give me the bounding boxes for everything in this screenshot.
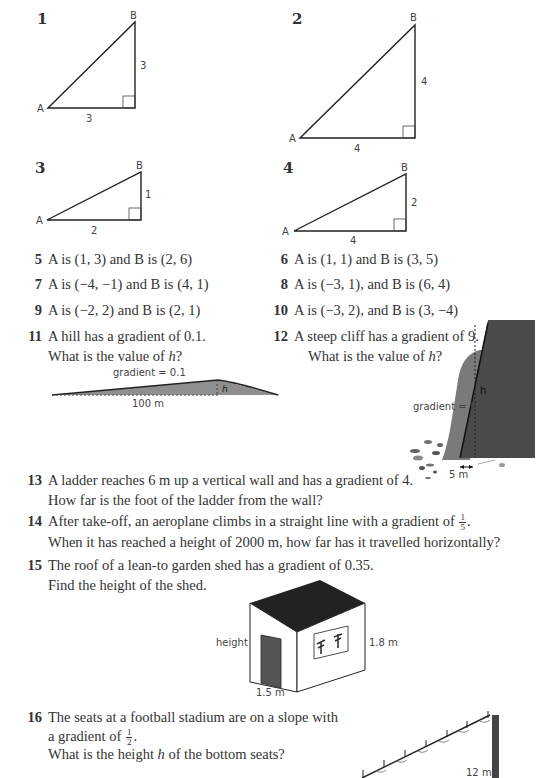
gradient-label: gradient = 0.1 xyxy=(113,367,186,378)
question-text: A is (−4, −1) and B is (4, 1) xyxy=(48,276,209,292)
fraction: 15 xyxy=(459,513,466,532)
question-text: After take-off, an aeroplane climbs in a… xyxy=(48,513,458,529)
question-text: A is (1, 1) and B is (3, 5) xyxy=(294,251,438,267)
question-number: 16 xyxy=(22,709,42,726)
question-13-line-2: How far is the foot of the ladder from t… xyxy=(48,492,323,509)
question-text: When it has reached a height of 2000 m, … xyxy=(48,534,500,550)
base-label: 3 xyxy=(86,113,92,124)
question-text: How far is the foot of the ladder from t… xyxy=(48,492,323,508)
h-label: h xyxy=(222,384,228,394)
vertex-b-label: B xyxy=(401,162,408,173)
height-label: 3 xyxy=(140,60,146,71)
question-text: . xyxy=(133,728,137,744)
vertex-a-label: A xyxy=(289,133,296,144)
height-label: height xyxy=(216,637,248,648)
question-number: 15 xyxy=(22,557,42,574)
base-label: 100 m xyxy=(132,398,164,409)
question-number: 14 xyxy=(22,513,42,530)
right-height-label: 1.8 m xyxy=(369,637,398,648)
triangle-diagram-2: A B 4 4 xyxy=(270,0,539,155)
fraction-denominator: 5 xyxy=(459,523,466,532)
question-number: 13 xyxy=(22,472,42,489)
question-number: 12 xyxy=(268,328,288,345)
h-label: h xyxy=(480,385,486,396)
vertex-a-label: A xyxy=(36,215,43,226)
base-label: 5 m xyxy=(449,469,468,480)
height-label: 2 xyxy=(411,197,417,208)
cliff-diagram: h gradient = 9 5 m xyxy=(400,320,539,495)
question-16: 16The seats at a football stadium are on… xyxy=(22,709,338,726)
question-5: 5A is (1, 3) and B is (2, 6) xyxy=(22,251,192,268)
question-text: A is (1, 3) and B is (2, 6) xyxy=(48,251,192,267)
question-number: 11 xyxy=(22,328,42,345)
question-14: 14After take-off, an aeroplane climbs in… xyxy=(22,513,471,532)
question-14-line-2: When it has reached a height of 2000 m, … xyxy=(48,534,500,551)
vertex-b-label: B xyxy=(410,12,417,23)
question-text: A is (−3, 2), and B is (3, −4) xyxy=(294,302,458,318)
question-16-line-2: a gradient of 12. xyxy=(48,728,137,747)
question-text: A is (−3, 1), and B is (6, 4) xyxy=(294,276,450,292)
base-label: 4 xyxy=(350,235,356,245)
question-number: 7 xyxy=(22,276,42,293)
height-label: 4 xyxy=(421,76,427,87)
question-11: 11A hill has a gradient of 0.1. xyxy=(22,328,206,345)
height-label: 12 m xyxy=(466,767,492,778)
question-13: 13A ladder reaches 6 m up a vertical wal… xyxy=(22,472,413,489)
variable-h: h xyxy=(158,746,165,762)
hill-diagram: gradient = 0.1 h 100 m xyxy=(30,360,280,410)
question-text: A hill has a gradient of 0.1. xyxy=(48,328,206,344)
stadium-diagram: 12 m xyxy=(340,700,539,778)
triangle-diagram-1: A B 3 3 xyxy=(0,0,270,130)
vertex-a-label: A xyxy=(37,103,44,114)
vertex-b-label: B xyxy=(130,10,137,21)
fraction: 12 xyxy=(126,728,133,747)
height-label: 1 xyxy=(145,189,151,200)
question-10: 10A is (−3, 2), and B is (3, −4) xyxy=(268,302,458,319)
question-text: a gradient of xyxy=(48,728,125,744)
question-9: 9A is (−2, 2) and B is (2, 1) xyxy=(22,302,200,319)
question-text: of the bottom seats? xyxy=(165,746,285,762)
question-number: 8 xyxy=(268,276,288,293)
question-8: 8A is (−3, 1), and B is (6, 4) xyxy=(268,276,450,293)
question-number: 5 xyxy=(22,251,42,268)
question-text: The seats at a football stadium are on a… xyxy=(48,709,338,725)
base-label: 1.5 m xyxy=(256,687,285,698)
question-16-line-3: What is the height h of the bottom seats… xyxy=(48,746,285,763)
shed-diagram: height 1.8 m 1.5 m xyxy=(180,560,400,700)
question-6: 6A is (1, 1) and B is (3, 5) xyxy=(268,251,438,268)
vertex-b-label: B xyxy=(136,160,143,171)
gradient-label: gradient = 9 xyxy=(413,401,476,412)
question-number: 6 xyxy=(268,251,288,268)
triangle-diagram-4: A B 2 4 xyxy=(270,150,539,245)
question-7: 7A is (−4, −1) and B is (4, 1) xyxy=(22,276,209,293)
question-text: . xyxy=(467,513,471,529)
vertex-a-label: A xyxy=(282,226,289,237)
question-number: 10 xyxy=(268,302,288,319)
base-label: 2 xyxy=(91,225,97,236)
question-text: A is (−2, 2) and B is (2, 1) xyxy=(48,302,200,318)
question-text: A ladder reaches 6 m up a vertical wall … xyxy=(48,472,413,488)
triangle-diagram-3: A B 1 2 xyxy=(0,150,270,240)
question-number: 9 xyxy=(22,302,42,319)
question-text: What is the height xyxy=(48,746,158,762)
